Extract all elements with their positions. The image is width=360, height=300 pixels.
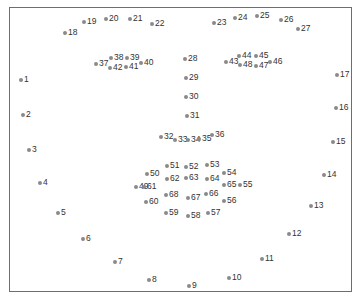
landmark-label: 28 [188,53,197,63]
point-marker-icon [104,17,108,21]
point-marker-icon [63,31,67,35]
point-marker-icon [159,135,163,139]
landmark-label: 5 [61,207,66,217]
point-marker-icon [113,260,117,264]
point-marker-icon [147,278,151,282]
landmark-label: 52 [189,161,198,171]
landmark-label: 20 [109,13,118,23]
point-marker-icon [21,113,25,117]
point-marker-icon [185,114,189,118]
landmark-label: 3 [32,144,37,154]
landmark-label: 60 [149,196,158,206]
landmark-label: 68 [169,189,178,199]
landmark-label: 64 [210,173,219,183]
point-marker-icon [287,232,291,236]
landmark-label: 26 [284,14,293,24]
point-marker-icon [222,171,226,175]
landmark-label: 12 [292,228,301,238]
point-marker-icon [38,181,42,185]
point-marker-icon [81,237,85,241]
landmark-label: 55 [243,179,252,189]
landmark-label: 16 [339,102,348,112]
point-marker-icon [224,60,228,64]
point-marker-icon [254,64,258,68]
landmark-label: 15 [336,136,345,146]
point-marker-icon [238,63,242,67]
landmark-label: 27 [301,23,310,33]
point-marker-icon [331,140,335,144]
point-marker-icon [134,185,138,189]
point-marker-icon [260,257,264,261]
landmark-label: 67 [191,192,200,202]
landmark-label: 51 [170,160,179,170]
landmark-label: 30 [189,91,198,101]
point-marker-icon [165,177,169,181]
point-marker-icon [56,211,60,215]
landmark-label: 65 [227,179,236,189]
point-marker-icon [238,183,242,187]
point-marker-icon [206,211,210,215]
landmark-label: 41 [129,61,138,71]
point-marker-icon [94,62,98,66]
landmark-label: 21 [133,13,142,23]
landmark-label: 47 [259,60,268,70]
point-marker-icon [128,17,132,21]
point-marker-icon [227,276,231,280]
point-marker-icon [268,60,272,64]
point-marker-icon [205,163,209,167]
point-marker-icon [165,164,169,168]
point-marker-icon [124,65,128,69]
landmark-label: 17 [340,69,349,79]
point-marker-icon [210,133,214,137]
landmark-label: 45 [259,50,268,60]
landmark-label: 1 [24,74,29,84]
point-marker-icon [184,76,188,80]
landmark-label: 42 [113,62,122,72]
point-marker-icon [222,183,226,187]
point-marker-icon [233,16,237,20]
point-marker-icon [186,196,190,200]
point-marker-icon [144,200,148,204]
landmark-label: 11 [265,253,274,263]
point-marker-icon [186,138,190,142]
landmark-label: 40 [144,57,153,67]
point-marker-icon [173,138,177,142]
landmark-label: 66 [209,188,218,198]
point-marker-icon [222,199,226,203]
landmark-label: 56 [227,195,236,205]
landmark-label: 63 [189,172,198,182]
point-marker-icon [309,204,313,208]
landmark-label: 57 [211,207,220,217]
landmark-label: 2 [26,109,31,119]
landmark-label: 13 [314,200,323,210]
landmark-label: 48 [243,59,252,69]
point-marker-icon [296,27,300,31]
landmark-label: 54 [227,167,236,177]
landmark-label: 58 [191,210,200,220]
point-marker-icon [334,106,338,110]
landmark-label: 36 [215,129,224,139]
plot-frame [9,7,352,292]
point-marker-icon [142,185,146,189]
landmark-label: 46 [273,56,282,66]
point-marker-icon [184,176,188,180]
point-marker-icon [197,137,201,141]
point-marker-icon [164,211,168,215]
point-marker-icon [254,54,258,58]
landmark-label: 4 [43,177,48,187]
landmark-label: 22 [155,18,164,28]
point-marker-icon [108,66,112,70]
point-marker-icon [27,148,31,152]
point-marker-icon [279,18,283,22]
landmark-label: 9 [192,280,197,290]
point-marker-icon [205,177,209,181]
landmark-label: 18 [68,27,77,37]
point-marker-icon [82,20,86,24]
landmark-label: 50 [150,168,159,178]
landmark-label: 19 [87,16,96,26]
point-marker-icon [186,214,190,218]
landmark-label: 14 [327,169,336,179]
landmark-label: 37 [99,58,108,68]
landmark-label: 7 [118,256,123,266]
point-marker-icon [150,22,154,26]
